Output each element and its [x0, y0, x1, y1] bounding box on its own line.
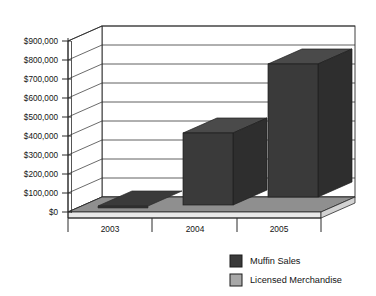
y-tick-label: $200,000: [24, 170, 59, 179]
legend-item-muffin-sales[interactable]: Muffin Sales: [230, 255, 301, 267]
y-tick-label: $600,000: [24, 94, 59, 103]
y-tick-label: $700,000: [24, 75, 59, 84]
bar-2005[interactable]: [268, 49, 352, 197]
y-tick-label: $400,000: [24, 132, 59, 141]
legend-swatch-licensed-merchandise: [230, 274, 242, 286]
legend-label-muffin-sales: Muffin Sales: [250, 256, 301, 266]
y-tick-label: $900,000: [24, 37, 59, 46]
legend-swatch-muffin-sales: [230, 255, 242, 267]
x-tick-label-2005: 2005: [270, 224, 289, 234]
y-tick-label: $500,000: [24, 113, 59, 122]
y-tick-label: $0: [49, 208, 59, 217]
bar-2004[interactable]: [183, 118, 267, 205]
legend-label-licensed-merchandise: Licensed Merchandise: [250, 275, 342, 285]
y-tick-label: $300,000: [24, 151, 59, 160]
x-tick-label-2004: 2004: [186, 224, 205, 234]
chart-container: $900,000 $800,000 $700,000 $600,000 $500…: [0, 0, 376, 296]
x-tick-label-2003: 2003: [101, 224, 120, 234]
column-chart-3d: $900,000 $800,000 $700,000 $600,000 $500…: [0, 0, 376, 296]
plot-left-wall: [68, 26, 102, 212]
y-tick-label: $800,000: [24, 56, 59, 65]
y-tick-label: $100,000: [24, 189, 59, 198]
